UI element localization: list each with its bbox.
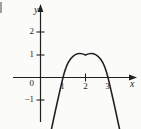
- parabola-figure: y x 2 1 0 −1 1 2 3: [0, 0, 141, 129]
- x-tick-label-2: 2: [80, 82, 91, 91]
- plot-canvas: [0, 0, 141, 129]
- y-tick-label-minus-1: −1: [19, 95, 34, 104]
- y-axis-label: y: [34, 5, 38, 15]
- x-axis-label: x: [130, 79, 134, 89]
- y-tick-label-1: 1: [24, 50, 34, 59]
- parabola-curve: [52, 53, 120, 129]
- y-axis-arrowhead: [38, 4, 44, 12]
- y-axis: [38, 4, 44, 122]
- x-tick-label-3: 3: [102, 82, 113, 91]
- x-tick-label-1: 1: [57, 82, 68, 91]
- y-tick-label-2: 2: [24, 27, 34, 36]
- origin-label: 0: [24, 79, 34, 88]
